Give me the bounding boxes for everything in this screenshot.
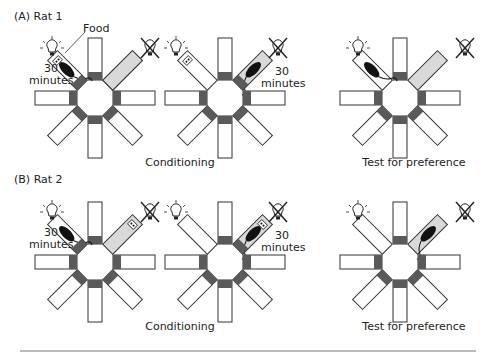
lightbulb-off-icon (456, 202, 474, 222)
lightbulb-on-icon (164, 200, 188, 220)
maze-b2 (165, 202, 285, 322)
maze-a1 (35, 38, 155, 158)
time-label-line2: minutes (261, 241, 306, 254)
caption-conditioning-b: Conditioning (145, 320, 215, 333)
lightbulb-on-icon (346, 200, 370, 220)
lightbulb-off-icon (141, 202, 159, 222)
caption-test-b: Test for preference (361, 320, 466, 333)
maze-a3 (340, 38, 460, 158)
time-label-line2: minutes (261, 77, 306, 90)
panel-b-label: (B) Rat 2 (14, 173, 63, 186)
time-label-line2: minutes (29, 74, 74, 87)
lightbulb-on-icon (40, 200, 64, 220)
maze-b1 (35, 202, 155, 322)
lightbulb-on-icon (164, 36, 188, 56)
lightbulb-on-icon (346, 36, 370, 56)
lightbulb-off-icon (141, 38, 159, 58)
radial-maze-diagram: (A) Rat 1 (B) Rat 2 Food 30 minutes (0, 0, 496, 357)
panel-a-label: (A) Rat 1 (14, 10, 63, 23)
caption-test-a: Test for preference (361, 156, 466, 169)
lightbulb-off-icon (269, 38, 287, 58)
time-label-line2: minutes (29, 238, 74, 251)
food-label: Food (83, 22, 109, 35)
lightbulb-off-icon (456, 38, 474, 58)
lightbulb-on-icon (40, 36, 64, 56)
lightbulb-off-icon (269, 202, 287, 222)
maze-a2 (165, 38, 285, 158)
maze-b3 (340, 202, 460, 322)
caption-conditioning-a: Conditioning (145, 156, 215, 169)
